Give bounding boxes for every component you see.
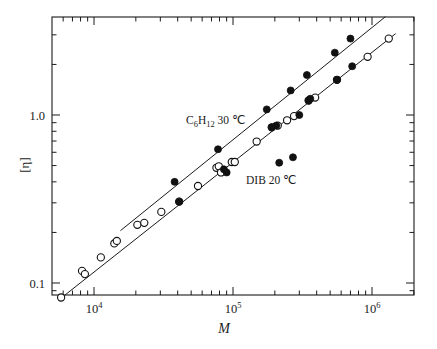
x-axis-title: M: [217, 321, 231, 336]
data-point: [223, 169, 230, 176]
data-point: [276, 159, 283, 166]
fit-line-c6h12: [120, 17, 385, 231]
series-label-c6h12: C6H12 30 ℃: [186, 114, 245, 129]
data-point: [171, 178, 178, 185]
annotation-dib-group: DIB 20 ℃: [246, 174, 296, 186]
data-point: [364, 53, 371, 60]
data-point: [176, 198, 183, 205]
x-tick-label: 106: [364, 300, 381, 316]
data-point: [134, 221, 141, 228]
x-tick-label: 104: [86, 300, 104, 316]
annotation-c6h12-group: C6H12 30 ℃: [186, 114, 245, 129]
data-point: [58, 294, 65, 301]
x-axis-ticks-top: [63, 17, 414, 25]
data-point: [273, 122, 280, 129]
x-tick-label: 105: [225, 300, 242, 316]
data-point: [97, 254, 104, 261]
log-log-scatter-plot: 104105106 1.00.1 M [η] C6H12 30 ℃ DIB 20…: [0, 0, 437, 349]
data-point: [331, 49, 338, 56]
data-point: [296, 112, 303, 119]
fit-lines: [58, 17, 395, 301]
x-axis-tick-labels: 104105106: [86, 300, 381, 316]
y-axis-title-group: [η]: [17, 157, 32, 172]
data-point: [263, 106, 270, 113]
data-point: [113, 237, 120, 244]
data-point: [385, 35, 392, 42]
plot-frame: [52, 17, 414, 295]
data-point: [307, 95, 314, 102]
data-point: [215, 146, 222, 153]
data-point: [158, 208, 165, 215]
y-axis-tick-labels: 1.00.1: [29, 109, 45, 291]
x-axis-ticks-bottom: [63, 287, 414, 295]
y-axis-ticks-right: [406, 35, 414, 291]
fit-line-dib: [58, 34, 395, 301]
data-point: [253, 138, 260, 145]
y-axis-title: [η]: [17, 157, 32, 172]
series-label-dib: DIB 20 ℃: [246, 174, 296, 186]
data-point: [141, 219, 148, 226]
data-point: [81, 270, 88, 277]
data-point: [289, 154, 296, 161]
figure-container: 104105106 1.00.1 M [η] C6H12 30 ℃ DIB 20…: [0, 0, 437, 349]
y-axis-ticks-left: [52, 35, 60, 291]
data-point: [231, 158, 238, 165]
data-point: [194, 182, 201, 189]
y-tick-label: 1.0: [29, 109, 45, 123]
data-point: [287, 87, 294, 94]
y-tick-label: 0.1: [29, 277, 45, 291]
data-point: [349, 63, 356, 70]
data-point: [303, 72, 310, 79]
data-point: [283, 117, 290, 124]
data-point: [333, 76, 340, 83]
data-point: [347, 35, 354, 42]
